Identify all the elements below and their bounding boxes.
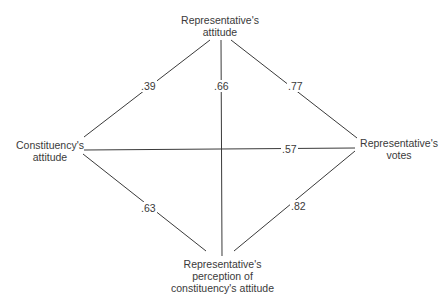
edge-label-82: .82: [290, 200, 307, 212]
node-text: perception of: [160, 270, 285, 282]
node-text: attitude: [160, 26, 280, 38]
edge-label-66: .66: [213, 80, 230, 92]
node-constituencys-attitude: Constituency's attitude: [12, 139, 88, 163]
edge-label-77: .77: [287, 80, 304, 92]
node-representatives-attitude: Representative's attitude: [160, 14, 280, 38]
node-text: Representative's: [160, 14, 280, 26]
node-text: votes: [354, 149, 444, 161]
node-text: attitude: [12, 151, 88, 163]
node-representatives-votes: Representative's votes: [354, 137, 444, 161]
node-text: Constituency's: [12, 139, 88, 151]
node-text: constituency's attitude: [160, 282, 285, 294]
node-representatives-perception: Representative's perception of constitue…: [160, 258, 285, 294]
node-text: Representative's: [354, 137, 444, 149]
edge-constituency-to-votes: [84, 148, 355, 150]
edge-rep-attitude-to-perception: [221, 40, 222, 256]
edge-label-57: .57: [281, 143, 298, 155]
node-text: Representative's: [160, 258, 285, 270]
edge-label-63: .63: [140, 202, 157, 214]
edge-label-39: .39: [140, 80, 157, 92]
